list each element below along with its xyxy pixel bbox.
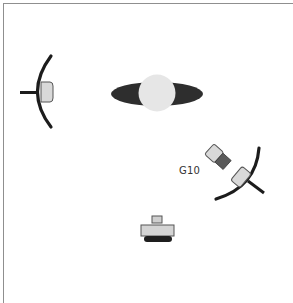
camera-base: [144, 236, 172, 242]
left-light-head: [41, 82, 53, 102]
right-light-stand: [248, 181, 264, 193]
camera-viewfinder: [152, 216, 162, 223]
g10-label: G10: [179, 165, 200, 176]
right-light-head-group: [231, 166, 252, 188]
g10-light-unit: [205, 144, 232, 170]
right-light: [205, 144, 264, 199]
camera-body: [141, 225, 174, 236]
subject-head: [139, 75, 176, 112]
right-light-head: [231, 166, 252, 188]
left-light: [20, 56, 53, 127]
camera: [141, 216, 174, 242]
subject: [111, 75, 203, 112]
